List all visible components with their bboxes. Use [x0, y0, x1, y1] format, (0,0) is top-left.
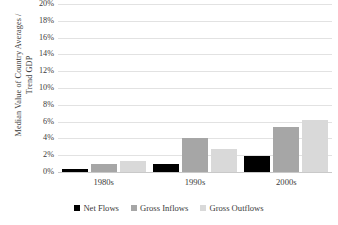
y-axis-tick-label: 2% [22, 151, 54, 159]
y-axis-tick-label: 18% [22, 17, 54, 25]
gridline [58, 172, 332, 173]
x-axis-tick-label: 2000s [241, 176, 332, 190]
legend-label: Gross Outflows [209, 203, 263, 213]
y-axis-tick-label: 10% [22, 84, 54, 92]
legend-item[interactable]: Gross Outflows [200, 203, 263, 213]
x-axis-tick-label: 1980s [58, 176, 149, 190]
legend-swatch-icon [74, 205, 80, 211]
bar-group [58, 4, 149, 172]
plot-area [58, 4, 332, 172]
bar[interactable] [91, 164, 117, 172]
y-axis-tick-label: 12% [22, 67, 54, 75]
bar-group [241, 4, 332, 172]
legend-label: Gross Inflows [140, 203, 188, 213]
bars-layer [58, 4, 332, 172]
y-axis-tick-label: 6% [22, 117, 54, 125]
legend-label: Net Flows [83, 203, 119, 213]
bar[interactable] [244, 156, 270, 172]
bar-group [149, 4, 240, 172]
bar-chart: Median Value of Country Averages / Trend… [0, 0, 338, 225]
y-axis-tick-label: 0% [22, 168, 54, 176]
legend-swatch-icon [131, 205, 137, 211]
y-axis-tick-label: 8% [22, 101, 54, 109]
bar[interactable] [211, 149, 237, 172]
x-axis-tick-labels: 1980s1990s2000s [58, 176, 332, 190]
legend-swatch-icon [200, 205, 206, 211]
legend-item[interactable]: Gross Inflows [131, 203, 188, 213]
x-axis-tick-label: 1990s [149, 176, 240, 190]
bar[interactable] [182, 138, 208, 172]
bar[interactable] [153, 164, 179, 172]
y-axis-tick-label: 14% [22, 50, 54, 58]
bar[interactable] [302, 120, 328, 172]
legend-item[interactable]: Net Flows [74, 203, 119, 213]
chart-legend: Net FlowsGross InflowsGross Outflows [0, 203, 338, 213]
y-axis-tick-labels: 20%18%16%14%12%10%8%6%4%2%0% [22, 4, 54, 172]
y-axis-tick-label: 16% [22, 33, 54, 41]
bar[interactable] [62, 169, 88, 172]
bar[interactable] [120, 161, 146, 172]
y-axis-tick-label: 20% [22, 0, 54, 8]
bar[interactable] [273, 127, 299, 172]
y-axis-tick-label: 4% [22, 134, 54, 142]
